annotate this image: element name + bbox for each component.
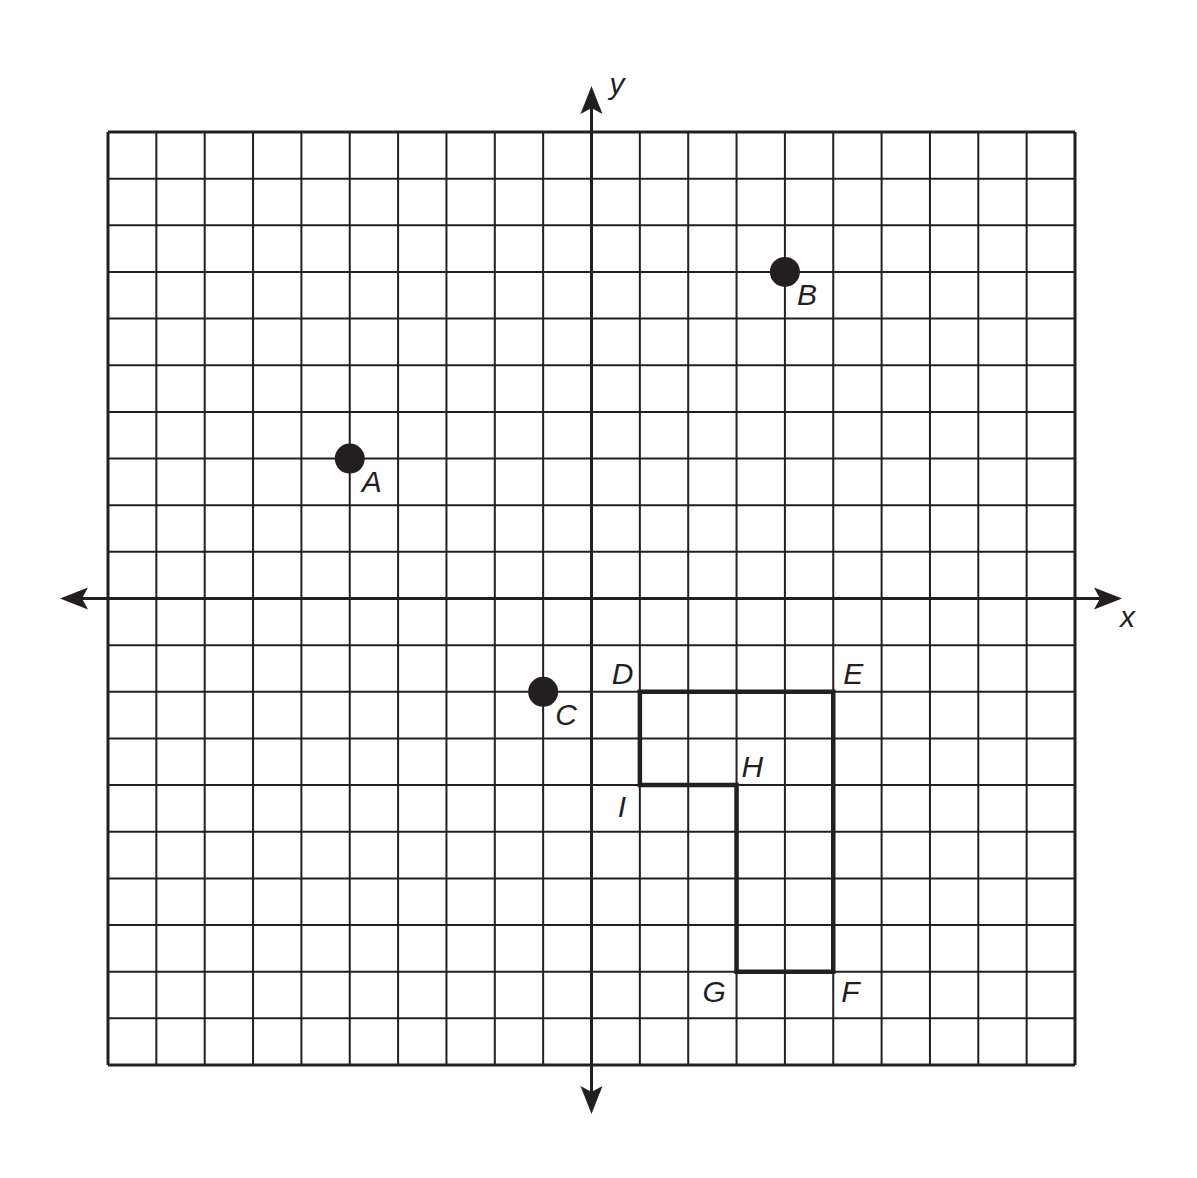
plotted-points: ABC [335, 257, 817, 731]
point-a-dot-icon [335, 444, 365, 474]
vertex-label-g: G [703, 975, 726, 1008]
vertex-label-f: F [841, 975, 861, 1008]
vertex-label-d: D [612, 657, 634, 690]
point-b-dot-icon [770, 257, 800, 287]
x-axis-label: x [1118, 600, 1136, 633]
axes: x y [60, 67, 1136, 1114]
point-label-b: B [797, 278, 817, 311]
point-c-dot-icon [528, 677, 558, 707]
vertex-label-e: E [843, 657, 864, 690]
coordinate-plane: x y DEFGHI ABC [0, 0, 1197, 1178]
y-axis-label: y [608, 67, 627, 100]
vertex-label-h: H [742, 750, 764, 783]
point-label-c: C [555, 698, 577, 731]
vertex-label-i: I [618, 790, 626, 823]
point-label-a: A [360, 465, 382, 498]
